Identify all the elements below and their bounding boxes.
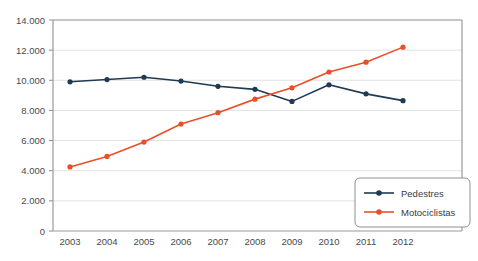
x-axis-tick-label: 2005 (133, 236, 154, 247)
data-point (178, 78, 183, 83)
data-point (67, 79, 72, 84)
data-point (252, 97, 257, 102)
data-point (252, 87, 257, 92)
x-axis-tick-label: 2009 (281, 236, 302, 247)
data-point (289, 99, 294, 104)
data-point (400, 45, 405, 50)
data-point (326, 69, 331, 74)
data-series-layer (67, 45, 405, 170)
legend-box (355, 178, 470, 227)
data-point (141, 75, 146, 80)
y-axis-tick-label: 8.000 (21, 105, 45, 116)
series-motociclistas (67, 45, 405, 170)
x-axis-tick-labels: 2003200420052006200720082009201020112012 (59, 236, 413, 247)
series-pedestres (67, 75, 405, 104)
line-chart: 02.0004.0006.0008.00010.00012.00014.000 … (0, 0, 478, 261)
y-axis-tick-label: 2.000 (21, 195, 45, 206)
x-axis-tick-label: 2010 (318, 236, 339, 247)
y-axis-tick-label: 10.000 (16, 75, 45, 86)
data-point (104, 77, 109, 82)
x-axis-tick-label: 2008 (244, 236, 265, 247)
x-axis-tick-label: 2011 (356, 236, 376, 247)
series-line (70, 77, 403, 101)
legend-swatch-marker (376, 190, 382, 196)
y-axis-tick-label: 14.000 (16, 15, 45, 26)
chart-container: 02.0004.0006.0008.00010.00012.00014.000 … (0, 0, 478, 261)
x-axis-tick-label: 2004 (96, 236, 117, 247)
y-axis-tick-label: 6.000 (21, 135, 45, 146)
series-line (70, 47, 403, 167)
data-point (104, 154, 109, 159)
data-point (326, 82, 331, 87)
x-axis-tick-label: 2003 (59, 236, 80, 247)
legend-item-label: Pedestres (401, 188, 444, 199)
x-axis-tick-label: 2006 (170, 236, 191, 247)
y-axis-tick-label: 4.000 (21, 165, 45, 176)
data-point (289, 85, 294, 90)
legend-item-label: Motociclistas (401, 207, 456, 218)
data-point (141, 139, 146, 144)
chart-legend[interactable]: PedestresMotociclistas (355, 178, 470, 227)
x-axis-tick-label: 2007 (207, 236, 228, 247)
data-point (67, 164, 72, 169)
data-point (215, 110, 220, 115)
y-axis-tick-label: 0 (40, 226, 45, 237)
data-point (363, 91, 368, 96)
y-axis-tick-labels: 02.0004.0006.0008.00010.00012.00014.000 (16, 15, 45, 237)
y-axis-tick-label: 12.000 (16, 45, 45, 56)
data-point (215, 84, 220, 89)
data-point (400, 98, 405, 103)
x-axis-tick-label: 2012 (392, 236, 413, 247)
data-point (178, 121, 183, 126)
data-point (363, 60, 368, 65)
legend-swatch-marker (376, 209, 382, 215)
